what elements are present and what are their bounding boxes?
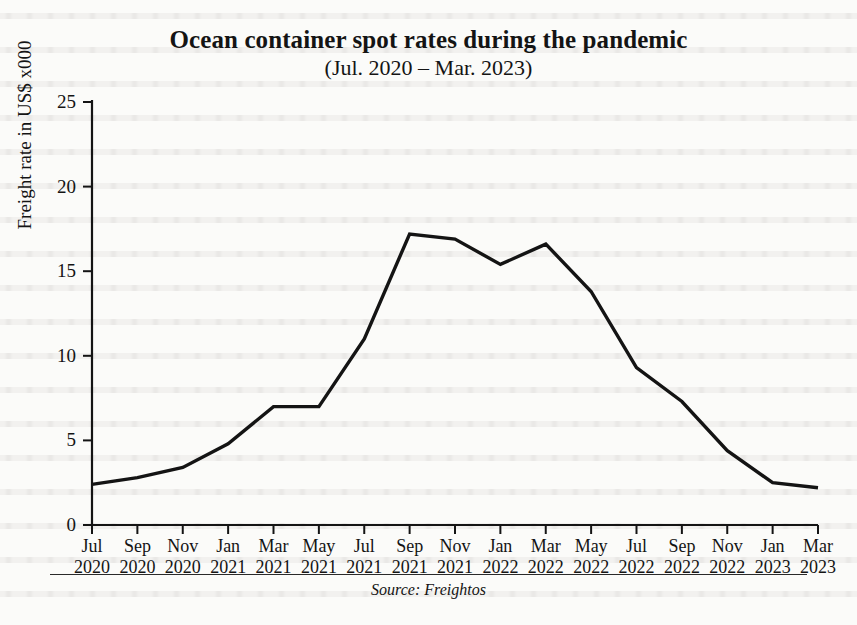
x-tick-label-month: Jul [354,536,375,556]
data-series-line [92,234,818,488]
x-tick-label-month: Mar [803,536,833,556]
x-tick-label-month: Jan [488,536,512,556]
y-tick-label: 10 [57,345,76,366]
y-tick-label: 5 [67,429,77,450]
line-chart-svg: 0510152025 Jul2020Sep2020Nov2020Jan2021M… [0,0,857,625]
source-note: Source: Freightos [0,581,857,599]
x-tick-label-month: Mar [259,536,289,556]
y-tick-label: 0 [67,514,77,535]
x-tick-label-month: Jul [626,536,647,556]
x-tick-label-month: Sep [124,536,151,556]
plot-area: 0510152025 Jul2020Sep2020Nov2020Jan2021M… [0,0,857,625]
x-tick-label-month: Mar [531,536,561,556]
x-tick-label-month: Sep [668,536,695,556]
y-tick-label: 25 [57,91,76,112]
y-axis-ticks: 0510152025 [57,91,92,535]
y-tick-label: 20 [57,176,76,197]
chart-figure: Ocean container spot rates during the pa… [0,0,857,625]
x-tick-label-month: May [302,536,335,556]
source-divider [50,574,807,575]
y-tick-label: 15 [57,260,76,281]
x-tick-label-month: Jan [216,536,240,556]
x-tick-label-month: Nov [167,536,198,556]
x-axis-ticks: Jul2020Sep2020Nov2020Jan2021Mar2021May20… [74,525,836,577]
x-tick-label-month: Jul [81,536,102,556]
x-tick-label-month: Nov [712,536,743,556]
x-tick-label-month: May [575,536,608,556]
x-tick-label-month: Jan [761,536,785,556]
x-tick-label-month: Nov [440,536,471,556]
x-tick-label-month: Sep [396,536,423,556]
